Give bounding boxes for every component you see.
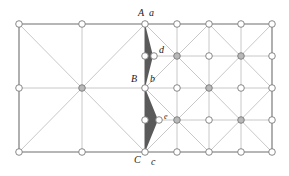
node-circle-icon — [206, 85, 213, 92]
node-circle-icon — [79, 21, 86, 28]
node-circle-icon — [238, 21, 245, 28]
node-circle-icon — [206, 149, 213, 156]
label-c: c — [151, 156, 156, 167]
node-circle-icon — [174, 21, 181, 28]
node-circle-icon — [238, 85, 245, 92]
node-circle-icon — [238, 53, 245, 60]
node-circle-icon — [142, 117, 149, 124]
node-circle-icon — [142, 149, 149, 156]
label-A: A — [137, 7, 145, 18]
node-circle-icon — [206, 53, 213, 60]
node-circle-icon — [16, 85, 23, 92]
label-C: C — [134, 154, 141, 165]
node-circle-icon — [269, 21, 276, 28]
node-circle-icon — [269, 85, 276, 92]
label-b: b — [150, 73, 155, 84]
node-circle-icon — [16, 149, 23, 156]
node-circle-icon — [142, 53, 149, 60]
node-circle-icon — [269, 53, 276, 60]
mesh-diagram: A a B b C c d e — [0, 0, 289, 176]
node-circle-icon — [269, 149, 276, 156]
label-a: a — [149, 7, 154, 18]
node-circle-icon — [269, 117, 276, 124]
node-e-icon — [156, 117, 163, 124]
node-circle-icon — [206, 21, 213, 28]
node-circle-icon — [79, 85, 86, 92]
node-circle-icon — [206, 117, 213, 124]
node-circle-icon — [174, 149, 181, 156]
node-circle-icon — [142, 21, 149, 28]
node-d-icon — [151, 53, 158, 60]
node-circle-icon — [174, 117, 181, 124]
node-circle-icon — [238, 149, 245, 156]
label-e: e — [164, 112, 168, 121]
node-circle-icon — [238, 117, 245, 124]
label-d: d — [159, 44, 165, 55]
label-B: B — [131, 73, 137, 84]
node-circle-icon — [79, 149, 86, 156]
node-circle-icon — [174, 85, 181, 92]
node-circle-icon — [16, 21, 23, 28]
node-circle-icon — [174, 53, 181, 60]
node-circle-icon — [142, 85, 149, 92]
